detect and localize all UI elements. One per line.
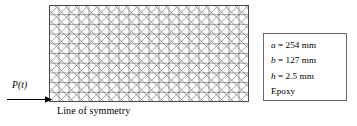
load-label: P(t) — [12, 80, 27, 90]
property-line: Epoxy — [271, 84, 346, 99]
property-value: Epoxy — [271, 86, 295, 96]
mesh-svg — [49, 5, 249, 102]
property-value: = 2.5 mm — [276, 71, 314, 81]
finite-element-model-figure: P(t) Line of symmetry a = 254 mm b = 127… — [0, 0, 357, 126]
property-value: = 254 mm — [276, 40, 317, 50]
finite-element-mesh — [49, 5, 249, 102]
line-of-symmetry-label: Line of symmetry — [57, 105, 130, 116]
property-value: = 127 mm — [276, 55, 317, 65]
mesh-grid-lines — [49, 5, 249, 102]
property-line: b = 127 mm — [271, 53, 346, 68]
material-properties-box: a = 254 mm b = 127 mm h = 2.5 mm Epoxy — [263, 33, 347, 101]
applied-load-group: P(t) — [6, 80, 52, 106]
property-line: a = 254 mm — [271, 38, 346, 53]
load-arrow-icon — [6, 93, 52, 105]
property-line: h = 2.5 mm — [271, 69, 346, 84]
